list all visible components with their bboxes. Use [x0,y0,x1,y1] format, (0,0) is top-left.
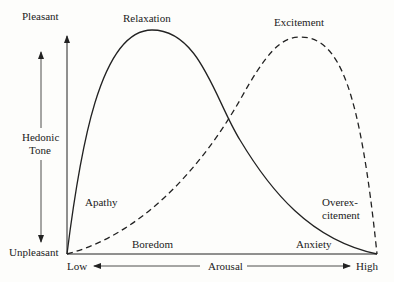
label-low: Low [67,260,87,272]
label-hedonic: Hedonic [22,131,59,143]
label-relaxation: Relaxation [123,12,171,24]
label-excitement: Excitement [274,16,324,28]
arousal-hedonic-diagram: Pleasant Hedonic Tone Unpleasant Low Aro… [0,0,394,282]
label-overex-2: citement [322,209,360,221]
label-unpleasant: Unpleasant [9,246,58,258]
label-apathy: Apathy [85,196,117,208]
label-anxiety: Anxiety [296,238,331,250]
label-tone: Tone [29,144,51,156]
label-pleasant: Pleasant [22,10,59,22]
label-overex-1: Overex- [322,196,358,208]
label-arousal: Arousal [208,260,243,272]
label-boredom: Boredom [132,238,173,250]
label-high: High [356,260,378,272]
dashed-curve [67,37,377,254]
